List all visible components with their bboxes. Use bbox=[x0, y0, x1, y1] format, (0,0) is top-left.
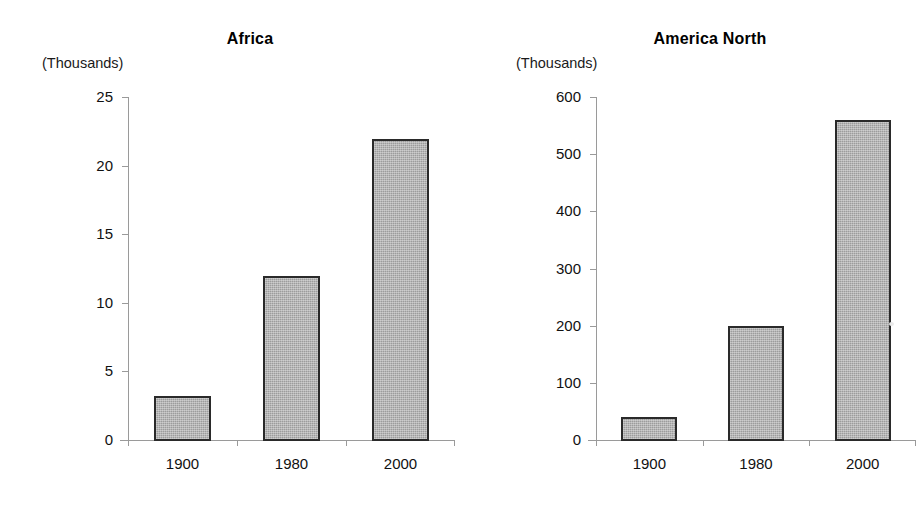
x-tick-africa-2 bbox=[346, 440, 347, 446]
y-tick-label-america-north-3: 300 bbox=[556, 259, 581, 279]
x-tick-label-africa-1980: 1980 bbox=[252, 455, 332, 472]
scan-artifact bbox=[889, 322, 894, 326]
x-tick-africa-1 bbox=[237, 440, 238, 446]
y-axis-line-america-north bbox=[596, 98, 597, 441]
x-tick-africa-0 bbox=[128, 440, 129, 446]
x-tick-label-america-north-1900: 1900 bbox=[609, 455, 689, 472]
x-tick-label-africa-2000: 2000 bbox=[361, 455, 441, 472]
y-axis-units-label-america-north: (Thousands) bbox=[516, 55, 597, 71]
y-tick-africa-5: 25 bbox=[122, 97, 129, 98]
y-tick-america-north-1: 100 bbox=[590, 383, 597, 384]
chart-title-america-north: America North bbox=[525, 30, 895, 48]
y-tick-africa-2: 10 bbox=[122, 303, 129, 304]
bar-africa-1980 bbox=[263, 276, 320, 441]
y-tick-africa-1: 5 bbox=[122, 371, 129, 372]
y-tick-label-america-north-2: 200 bbox=[556, 316, 581, 336]
y-tick-label-america-north-1: 100 bbox=[556, 373, 581, 393]
y-tick-label-america-north-4: 400 bbox=[556, 201, 581, 221]
y-tick-label-africa-4: 20 bbox=[96, 156, 113, 176]
bar-america-north-1980 bbox=[728, 326, 784, 441]
y-axis-units-label-africa: (Thousands) bbox=[42, 55, 123, 71]
y-tick-label-america-north-6: 600 bbox=[556, 87, 581, 107]
y-tick-america-north-2: 200 bbox=[590, 326, 597, 327]
y-axis-line-africa bbox=[128, 98, 129, 441]
plot-area-america-north: 0100200300400500600190019802000 bbox=[596, 98, 916, 441]
y-tick-america-north-6: 600 bbox=[590, 97, 597, 98]
y-tick-label-america-north-0: 0 bbox=[573, 430, 581, 450]
y-tick-label-africa-5: 25 bbox=[96, 87, 113, 107]
y-tick-label-africa-3: 15 bbox=[96, 224, 113, 244]
x-tick-africa-3 bbox=[454, 440, 455, 446]
plot-area-africa: 0510152025190019802000 bbox=[128, 98, 455, 441]
bar-america-north-2000 bbox=[835, 120, 891, 441]
x-tick-america-north-0 bbox=[596, 440, 597, 446]
bar-africa-2000 bbox=[372, 139, 429, 441]
chart-panel-america-north: America North (Thousands) 01002003004005… bbox=[470, 0, 915, 512]
y-tick-label-africa-0: 0 bbox=[105, 430, 113, 450]
y-tick-label-america-north-5: 500 bbox=[556, 144, 581, 164]
y-tick-africa-4: 20 bbox=[122, 166, 129, 167]
chart-title-africa: Africa bbox=[55, 30, 445, 48]
x-tick-label-africa-1900: 1900 bbox=[143, 455, 223, 472]
y-tick-label-africa-2: 10 bbox=[96, 293, 113, 313]
y-tick-africa-3: 15 bbox=[122, 234, 129, 235]
x-tick-label-america-north-1980: 1980 bbox=[716, 455, 796, 472]
bar-africa-1900 bbox=[154, 396, 211, 441]
chart-panel-africa: Africa (Thousands) 051015202519001980200… bbox=[0, 0, 470, 512]
y-tick-america-north-5: 500 bbox=[590, 154, 597, 155]
y-tick-america-north-3: 300 bbox=[590, 269, 597, 270]
bar-america-north-1900 bbox=[621, 417, 677, 441]
x-tick-america-north-1 bbox=[703, 440, 704, 446]
x-tick-america-north-2 bbox=[809, 440, 810, 446]
y-tick-label-africa-1: 5 bbox=[105, 361, 113, 381]
y-tick-america-north-4: 400 bbox=[590, 211, 597, 212]
x-tick-label-america-north-2000: 2000 bbox=[823, 455, 903, 472]
